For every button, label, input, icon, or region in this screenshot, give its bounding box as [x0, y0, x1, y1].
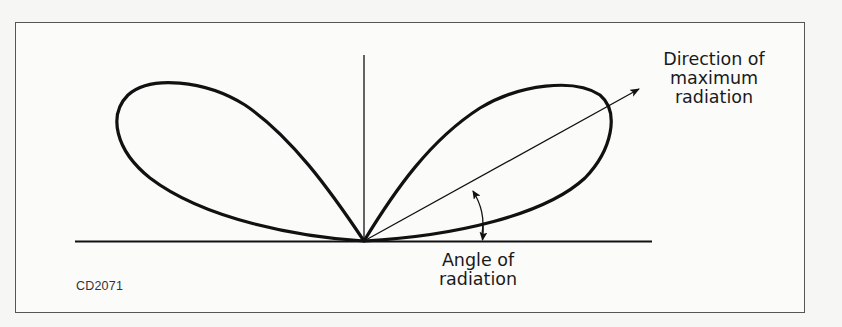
figure-id: CD2071 — [76, 279, 123, 293]
right-radiation-lobe — [364, 85, 611, 241]
angle-of-radiation-label: Angle of radiation — [420, 251, 536, 289]
direction-label-line1: Direction of — [654, 50, 774, 69]
angle-label-line1: Angle of — [420, 251, 536, 270]
direction-label-line2: maximum — [654, 69, 774, 88]
angle-arc-lower-arrow — [483, 225, 484, 240]
angle-label-line2: radiation — [420, 270, 536, 289]
left-radiation-lobe — [117, 83, 364, 241]
direction-of-max-radiation-label: Direction of maximum radiation — [654, 50, 774, 107]
direction-label-line3: radiation — [654, 88, 774, 107]
